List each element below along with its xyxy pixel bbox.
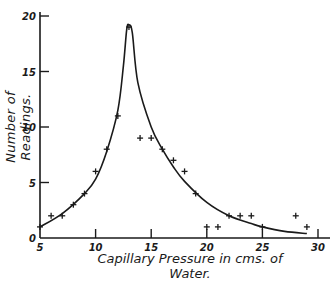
fitted-curve (40, 24, 307, 233)
data-point-plus-icon (215, 224, 221, 230)
data-point-plus-icon (204, 224, 210, 230)
fitted-curve-path (40, 24, 307, 233)
data-point-plus-icon (48, 213, 54, 219)
y-tick-label: 20 (22, 11, 36, 22)
y-tick-label: 0 (29, 233, 36, 244)
axes: 5101520253005101520 (22, 11, 330, 253)
y-axis-label: Number of Readings. (3, 67, 33, 187)
data-point-plus-icon (259, 224, 265, 230)
data-point-plus-icon (293, 213, 299, 219)
data-point-plus-icon (237, 213, 243, 219)
data-point-plus-icon (59, 213, 65, 219)
data-point-plus-icon (148, 135, 154, 141)
data-point-plus-icon (137, 135, 143, 141)
data-point-plus-icon (182, 168, 188, 174)
x-tick-label: 30 (311, 242, 325, 253)
data-point-plus-icon (226, 213, 232, 219)
x-axis-label: Capillary Pressure in cms. of Water. (90, 251, 290, 281)
x-tick-label: 5 (37, 242, 44, 253)
data-point-plus-icon (170, 157, 176, 163)
data-point-plus-icon (248, 213, 254, 219)
data-point-plus-icon (304, 224, 310, 230)
